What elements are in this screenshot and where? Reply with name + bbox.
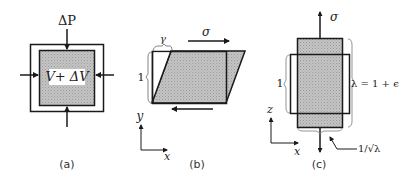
stress-label-c: σ	[330, 10, 339, 24]
height-brace	[146, 52, 152, 103]
gamma-brace	[153, 44, 172, 51]
caption-c: (c)	[312, 158, 327, 171]
width-leader-line	[330, 137, 357, 149]
original-length-brace	[284, 55, 290, 113]
caption-a: (a)	[59, 158, 74, 171]
height-label-b: 1	[138, 71, 145, 84]
caption-b: (b)	[189, 158, 205, 171]
panel-c-uniaxial	[271, 12, 357, 152]
width-label: 1/√λ	[358, 143, 381, 154]
stress-label-b: σ	[202, 25, 211, 39]
pressure-label: ΔP	[58, 13, 76, 28]
volume-label: V+ ΔV	[45, 69, 90, 84]
original-length-label: 1	[277, 77, 284, 90]
panel-b-shear	[141, 41, 245, 150]
axis-x-label-b: x	[164, 150, 171, 163]
gamma-label: γ	[160, 33, 166, 44]
axis-x-label-c: x	[294, 145, 301, 158]
diagram-canvas: ΔP V+ ΔV (a) σ γ 1 y x (b) σ 1 λ = 1 + ϵ…	[0, 0, 403, 185]
axis-z-label: z	[266, 103, 273, 116]
axis-y-label: y	[136, 109, 144, 123]
stretch-label: λ = 1 + ϵ	[351, 78, 399, 89]
